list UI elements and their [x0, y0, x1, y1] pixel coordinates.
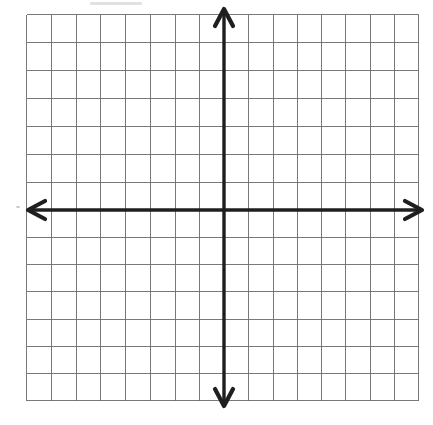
- coordinate-plane-svg: [0, 0, 433, 425]
- scan-speckle: [16, 206, 20, 208]
- graph-paper-page: [0, 0, 433, 425]
- scan-artifacts: [16, 2, 142, 208]
- scan-smudge: [90, 2, 142, 5]
